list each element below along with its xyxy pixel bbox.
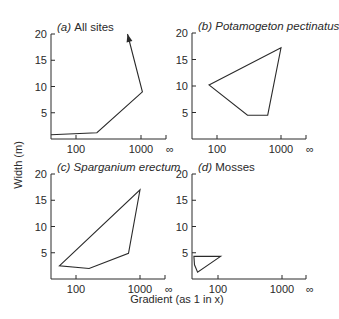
y-tick-label: 10 xyxy=(176,80,188,92)
axis-lines xyxy=(51,174,165,279)
x-tick-label: 1000 xyxy=(129,143,153,155)
envelope-polygon xyxy=(59,190,140,269)
axis-lines xyxy=(51,34,166,139)
y-tick-label: 20 xyxy=(176,168,188,180)
panels: 51015201001000∞(a) All sites510152010010… xyxy=(35,20,339,295)
panel-a: 51015201001000∞(a) All sites xyxy=(35,21,174,155)
panel-d: 51015201001000∞(d) Mosses xyxy=(176,161,314,295)
figure: 51015201001000∞(a) All sites510152010010… xyxy=(0,0,339,319)
y-axis-title: Width (m) xyxy=(12,141,24,189)
y-tick-label: 5 xyxy=(182,107,188,119)
x-tick-label: 1000 xyxy=(269,143,293,155)
x-tick-label: 100 xyxy=(67,283,85,295)
y-tick-label: 10 xyxy=(35,81,47,93)
y-tick-label: 5 xyxy=(182,247,188,259)
y-tick-label: 15 xyxy=(35,194,47,206)
panel-title: (a) All sites xyxy=(57,21,114,33)
x-axis-title: Gradient (as 1 in x) xyxy=(130,293,224,305)
panel-b: 51015201001000∞(b) Potamogeton pectinatu… xyxy=(176,20,339,155)
y-tick-label: 10 xyxy=(176,221,188,233)
y-tick-label: 10 xyxy=(35,221,47,233)
x-tick-label: 100 xyxy=(208,143,226,155)
axis-lines xyxy=(192,33,306,139)
panel-c: 51015201001000∞(c) Sparganium erectum xyxy=(35,161,181,295)
x-tick-label: ∞ xyxy=(166,143,174,155)
axis-lines xyxy=(192,174,306,279)
y-tick-label: 15 xyxy=(35,54,47,66)
y-tick-label: 15 xyxy=(176,194,188,206)
panel-title: (d) Mosses xyxy=(198,161,255,173)
y-tick-label: 20 xyxy=(35,168,47,180)
envelope-polygon xyxy=(209,48,281,115)
y-tick-label: 5 xyxy=(41,247,47,259)
y-tick-label: 20 xyxy=(35,28,47,40)
x-tick-label: ∞ xyxy=(306,283,314,295)
envelope-polygon xyxy=(194,256,221,272)
y-tick-label: 5 xyxy=(41,107,47,119)
envelope-polyline xyxy=(51,34,142,135)
y-tick-label: 20 xyxy=(176,27,188,39)
panel-title: (c) Sparganium erectum xyxy=(57,161,181,173)
x-tick-label: 1000 xyxy=(270,283,294,295)
arrow-icon xyxy=(127,34,133,42)
y-tick-label: 15 xyxy=(176,54,188,66)
panel-title: (b) Potamogeton pectinatus xyxy=(198,20,339,32)
x-tick-label: 100 xyxy=(67,143,85,155)
x-tick-label: ∞ xyxy=(306,143,314,155)
